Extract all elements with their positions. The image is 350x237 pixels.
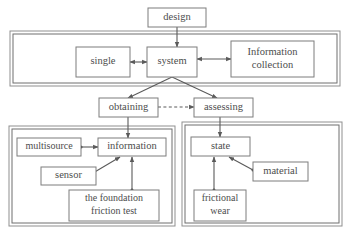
node-label-frictional-wear: frictional — [202, 192, 239, 203]
node-label-single: single — [90, 55, 115, 66]
node-design[interactable]: design — [148, 8, 206, 27]
edge-sensor-to-information — [93, 157, 120, 173]
node-label-assessing: assessing — [204, 101, 244, 112]
node-label-multisource: multisource — [25, 140, 73, 151]
node-foundation-friction-test[interactable]: the foundationfriction test — [69, 190, 159, 221]
node-label-information-collection: collection — [252, 59, 294, 70]
node-sensor[interactable]: sensor — [41, 167, 96, 185]
node-label-state: state — [211, 140, 231, 151]
edge-system-to-obtaining — [128, 77, 172, 98]
node-label-information-collection: Information — [247, 46, 298, 57]
node-label-system: system — [157, 55, 186, 66]
node-label-design: design — [163, 11, 191, 22]
node-material[interactable]: material — [253, 162, 308, 181]
node-label-foundation-friction-test: friction test — [91, 205, 137, 216]
node-multisource[interactable]: multisource — [17, 138, 81, 156]
node-obtaining[interactable]: obtaining — [99, 98, 158, 117]
edge-material-to-state — [229, 157, 253, 170]
node-label-material: material — [263, 165, 297, 176]
flow-diagram: designsinglesystemInformationcollectiono… — [0, 0, 350, 237]
node-label-sensor: sensor — [55, 169, 82, 180]
node-label-frictional-wear: wear — [210, 205, 230, 216]
node-label-foundation-friction-test: the foundation — [85, 192, 143, 203]
diagram-nodes: designsinglesystemInformationcollectiono… — [17, 8, 314, 221]
node-information-collection[interactable]: Informationcollection — [231, 41, 314, 77]
node-information[interactable]: information — [98, 138, 166, 156]
node-label-information: information — [107, 140, 157, 151]
node-state[interactable]: state — [191, 137, 250, 156]
node-frictional-wear[interactable]: frictionalwear — [194, 190, 246, 221]
node-assessing[interactable]: assessing — [194, 98, 253, 117]
node-label-obtaining: obtaining — [109, 101, 149, 112]
node-system[interactable]: system — [147, 47, 197, 77]
edge-system-to-assessing — [172, 77, 217, 98]
node-single[interactable]: single — [76, 47, 130, 77]
